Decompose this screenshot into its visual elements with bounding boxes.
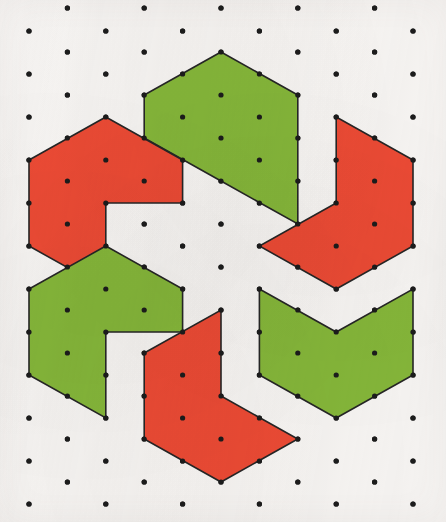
lattice-dot bbox=[372, 221, 377, 226]
lattice-dot bbox=[103, 329, 108, 334]
lattice-dot bbox=[103, 501, 108, 506]
lattice-dot bbox=[295, 393, 300, 398]
lattice-dot bbox=[410, 329, 415, 334]
lattice-dot bbox=[26, 329, 31, 334]
lattice-dot bbox=[295, 5, 300, 10]
lattice-dot bbox=[410, 243, 415, 248]
lattice-dot bbox=[295, 135, 300, 140]
lattice-dot bbox=[410, 157, 415, 162]
lattice-dot bbox=[65, 436, 70, 441]
lattice-dot bbox=[334, 114, 339, 119]
lattice-dot bbox=[142, 350, 147, 355]
lattice-dot bbox=[334, 286, 339, 291]
lattice-dot bbox=[180, 71, 185, 76]
lattice-dot bbox=[372, 436, 377, 441]
lattice-dot bbox=[334, 200, 339, 205]
lattice-dot bbox=[103, 286, 108, 291]
lattice-dot bbox=[142, 393, 147, 398]
lattice-dot bbox=[142, 5, 147, 10]
lattice-dot bbox=[65, 49, 70, 54]
lattice-dot bbox=[180, 157, 185, 162]
lattice-dot bbox=[103, 71, 108, 76]
lattice-dot bbox=[218, 264, 223, 269]
lattice-dot bbox=[295, 221, 300, 226]
lattice-dot bbox=[26, 114, 31, 119]
lattice-dot bbox=[65, 221, 70, 226]
lattice-dot bbox=[410, 415, 415, 420]
lattice-dot bbox=[26, 71, 31, 76]
lattice-dot bbox=[410, 372, 415, 377]
lattice-dot bbox=[103, 157, 108, 162]
lattice-dot bbox=[372, 307, 377, 312]
lattice-dot bbox=[257, 286, 262, 291]
lattice-dot bbox=[295, 92, 300, 97]
lattice-dot bbox=[103, 372, 108, 377]
lattice-dot bbox=[257, 501, 262, 506]
lattice-dot bbox=[180, 501, 185, 506]
lattice-dot bbox=[142, 178, 147, 183]
lattice-dot bbox=[334, 71, 339, 76]
lattice-dot bbox=[334, 372, 339, 377]
lattice-dot bbox=[180, 458, 185, 463]
lattice-dot bbox=[142, 264, 147, 269]
lattice-dot bbox=[142, 135, 147, 140]
lattice-dot bbox=[372, 5, 377, 10]
lattice-dot bbox=[295, 479, 300, 484]
lattice-dot bbox=[295, 350, 300, 355]
lattice-dot bbox=[257, 114, 262, 119]
lattice-dot bbox=[334, 157, 339, 162]
lattice-dot bbox=[218, 307, 223, 312]
lattice-dot bbox=[410, 200, 415, 205]
lattice-dot bbox=[26, 28, 31, 33]
lattice-dot bbox=[142, 436, 147, 441]
lattice-dot bbox=[218, 92, 223, 97]
lattice-dot bbox=[180, 243, 185, 248]
lattice-dot bbox=[65, 307, 70, 312]
lattice-dot bbox=[257, 157, 262, 162]
lattice-dot bbox=[103, 243, 108, 248]
lattice-dot bbox=[410, 458, 415, 463]
lattice-dot bbox=[257, 372, 262, 377]
lattice-dot bbox=[65, 350, 70, 355]
lattice-dot bbox=[180, 415, 185, 420]
lattice-dot bbox=[257, 71, 262, 76]
lattice-dot bbox=[26, 458, 31, 463]
lattice-dot bbox=[372, 49, 377, 54]
lattice-dot bbox=[334, 243, 339, 248]
lattice-dot bbox=[218, 135, 223, 140]
puzzle-figure bbox=[0, 0, 446, 522]
lattice-dot bbox=[26, 415, 31, 420]
lattice-dot bbox=[65, 178, 70, 183]
lattice-dot bbox=[372, 92, 377, 97]
lattice-dot bbox=[257, 415, 262, 420]
lattice-dot bbox=[142, 479, 147, 484]
lattice-dot bbox=[103, 200, 108, 205]
puzzle-board bbox=[0, 0, 446, 522]
lattice-dot bbox=[65, 135, 70, 140]
lattice-dot bbox=[410, 28, 415, 33]
lattice-dot bbox=[257, 200, 262, 205]
lattice-dot bbox=[65, 5, 70, 10]
lattice-dot bbox=[218, 178, 223, 183]
lattice-dot bbox=[180, 372, 185, 377]
lattice-dot bbox=[218, 49, 223, 54]
lattice-dot bbox=[218, 436, 223, 441]
lattice-dot bbox=[218, 393, 223, 398]
lattice-dot bbox=[180, 286, 185, 291]
lattice-dot bbox=[295, 49, 300, 54]
lattice-dot bbox=[257, 28, 262, 33]
lattice-dot bbox=[103, 458, 108, 463]
lattice-dot bbox=[26, 157, 31, 162]
lattice-dot bbox=[218, 221, 223, 226]
dissection-diagram bbox=[0, 0, 446, 522]
lattice-dot bbox=[65, 479, 70, 484]
lattice-dot bbox=[334, 28, 339, 33]
lattice-dot bbox=[180, 200, 185, 205]
lattice-dot bbox=[372, 135, 377, 140]
lattice-dot bbox=[180, 329, 185, 334]
lattice-dot bbox=[26, 200, 31, 205]
lattice-dot bbox=[295, 178, 300, 183]
lattice-dot bbox=[410, 71, 415, 76]
lattice-dot bbox=[218, 350, 223, 355]
lattice-dot bbox=[65, 393, 70, 398]
